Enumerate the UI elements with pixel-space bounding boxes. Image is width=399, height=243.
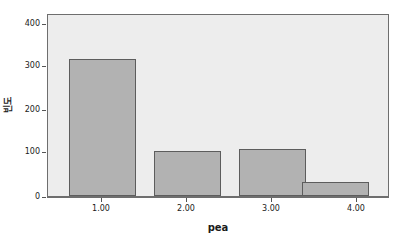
y-tick-label-300: 300 xyxy=(0,62,40,70)
y-tick-label-0: 0 xyxy=(0,193,40,201)
bar-category-1[interactable] xyxy=(69,59,136,196)
bar-category-3[interactable] xyxy=(239,149,306,196)
plot-area xyxy=(47,14,389,197)
y-axis-ticks: 400 300 200 100 0 xyxy=(0,0,40,243)
x-tick-label-2: 2.00 xyxy=(161,204,211,213)
x-axis-line xyxy=(47,197,389,198)
bars-layer xyxy=(48,15,388,196)
bar-chart: 빈도 400 300 200 100 0 1.00 2.00 3.00 4.00… xyxy=(0,0,399,243)
x-tick-mark-3 xyxy=(271,198,272,202)
bar-category-4[interactable] xyxy=(302,182,369,196)
bar-category-2[interactable] xyxy=(154,151,221,196)
x-axis-title: pea xyxy=(47,222,389,233)
y-tick-label-200: 200 xyxy=(0,106,40,114)
y-tick-label-400: 400 xyxy=(0,20,40,28)
y-tick-mark-0 xyxy=(42,197,46,198)
y-tick-label-100: 100 xyxy=(0,148,40,156)
x-tick-mark-4 xyxy=(356,198,357,202)
x-tick-mark-2 xyxy=(186,198,187,202)
x-tick-mark-1 xyxy=(101,198,102,202)
y-tick-mark-300 xyxy=(42,66,46,67)
x-tick-label-1: 1.00 xyxy=(76,204,126,213)
x-tick-label-3: 3.00 xyxy=(246,204,296,213)
y-tick-mark-400 xyxy=(42,24,46,25)
y-tick-mark-200 xyxy=(42,110,46,111)
x-tick-label-4: 4.00 xyxy=(331,204,381,213)
y-tick-mark-100 xyxy=(42,152,46,153)
